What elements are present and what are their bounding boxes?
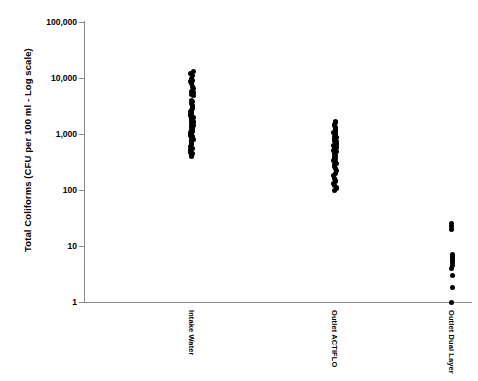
y-tick-mark [79,134,84,135]
x-category-label-0: Intake Water [184,310,196,381]
y-tick-mark [79,22,84,23]
data-point [449,266,454,271]
y-tick-mark [79,302,84,303]
y-tick-mark [79,190,84,191]
x-category-label-2: Outlet Dual Layer [444,310,456,381]
chart-container: Total Coliforms (CFU per 100 ml - Log sc… [0,0,478,381]
data-point [450,273,455,278]
data-point [189,154,194,159]
data-point [450,285,455,290]
data-point [449,227,454,232]
data-points-layer [0,0,478,381]
y-tick-mark [79,246,84,247]
y-tick-mark [79,78,84,79]
data-point [449,300,454,305]
x-category-label-1: Outlet ACTIFLO [327,310,339,381]
